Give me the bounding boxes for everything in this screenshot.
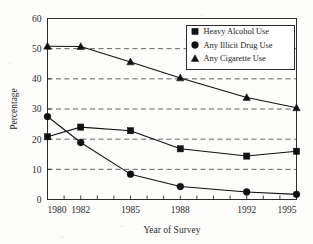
marker-circle — [243, 189, 250, 196]
chart-legend[interactable]: Heavy Alcohol UseAny Illicit Drug UseAny… — [187, 26, 295, 70]
x-tick-label: 1988 — [171, 205, 190, 215]
x-tick-label: 1995 — [278, 205, 297, 215]
legend-item-label: Any Cigarette Use — [204, 54, 267, 63]
y-tick-label: 30 — [32, 104, 42, 114]
marker-square — [127, 128, 133, 134]
marker-square — [244, 153, 250, 159]
marker-square — [192, 28, 198, 34]
y-tick-label: 40 — [32, 74, 42, 84]
line-chart: 0102030405060 198019821985198819921995 H… — [0, 0, 313, 244]
chart-page: 0102030405060 198019821985198819921995 H… — [0, 0, 313, 244]
legend-item[interactable]: Any Cigarette Use — [191, 54, 266, 63]
y-tick-label: 10 — [32, 165, 42, 175]
marker-circle — [77, 139, 84, 146]
marker-square — [44, 134, 50, 140]
legend-item[interactable]: Any Illicit Drug Use — [192, 41, 273, 50]
y-tick-label: 50 — [32, 44, 42, 54]
marker-square — [177, 146, 183, 152]
x-tick-label: 1982 — [71, 205, 90, 215]
legend-items: Heavy Alcohol UseAny Illicit Drug UseAny… — [191, 27, 273, 63]
marker-circle — [192, 42, 199, 49]
marker-circle — [44, 113, 51, 120]
marker-circle — [293, 191, 300, 198]
x-axis-title: Year of Survey — [143, 225, 200, 235]
legend-item-label: Heavy Alcohol Use — [204, 27, 270, 36]
marker-square — [293, 148, 299, 154]
y-axis-title: Percentage — [9, 88, 19, 130]
legend-item-label: Any Illicit Drug Use — [204, 41, 273, 50]
x-tick-label: 1992 — [237, 205, 256, 215]
y-tick-label: 60 — [32, 14, 42, 24]
marker-square — [78, 124, 84, 130]
y-tick-label: 20 — [32, 135, 42, 145]
x-tick-label: 1985 — [121, 205, 140, 215]
marker-circle — [127, 171, 134, 178]
x-tick-label: 1980 — [48, 205, 67, 215]
legend-item[interactable]: Heavy Alcohol Use — [192, 27, 269, 36]
y-tick-label: 0 — [37, 195, 42, 205]
marker-circle — [177, 183, 184, 190]
